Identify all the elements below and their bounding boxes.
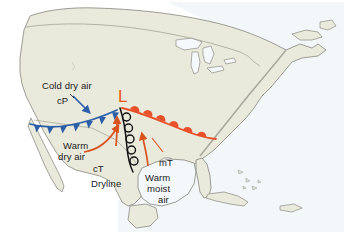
label-warm-dry-air-line1: Warm (63, 140, 88, 151)
map-canvas (0, 0, 348, 235)
label-warm-moist-air-line3: air (158, 194, 169, 205)
label-dryline: Dryline (91, 178, 121, 189)
label-cold-dry-air: Cold dry air (42, 80, 92, 91)
label-warm-dry-air-line2: dry air (58, 151, 85, 162)
cT-inflow-arrow-east (116, 118, 117, 146)
label-warm-moist-air-line2: moist (147, 183, 170, 194)
weather-map-figure: Cold dry air cP L Warm dry air cT Drylin… (0, 0, 348, 235)
label-cP: cP (57, 95, 68, 106)
low-pressure-label: L (118, 88, 127, 105)
label-mT: mT (159, 157, 173, 168)
label-cT: cT (93, 163, 104, 174)
label-warm-moist-air-line1: Warm (145, 172, 170, 183)
